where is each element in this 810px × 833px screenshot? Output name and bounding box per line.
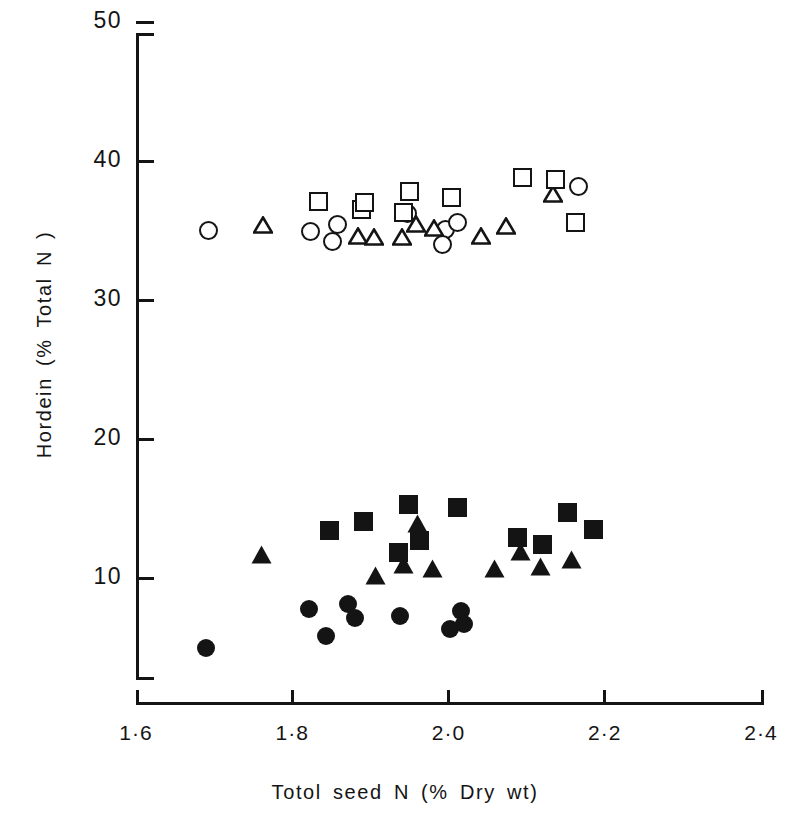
data-point-filled-circle (197, 639, 215, 657)
data-point-open-square (442, 188, 461, 207)
data-point-filled-square (389, 543, 408, 562)
x-axis-title: Totol seed N (% Dry wt) (0, 781, 810, 804)
data-point-filled-square (354, 512, 373, 531)
data-point-filled-triangle (251, 545, 272, 564)
data-point-open-circle (301, 222, 320, 241)
data-point-open-circle (569, 177, 588, 196)
data-point-filled-triangle (365, 566, 386, 585)
data-point-open-circle (433, 235, 452, 254)
data-point-filled-triangle (484, 559, 505, 578)
y-axis-title: Hordein (% Total N ) (33, 175, 56, 515)
data-point-filled-circle (300, 600, 318, 618)
data-point-open-square (566, 213, 585, 232)
data-point-filled-square (508, 528, 527, 547)
data-point-open-square (309, 192, 328, 211)
data-point-filled-triangle (561, 550, 582, 569)
data-point-open-circle (448, 213, 467, 232)
data-point-filled-circle (391, 607, 409, 625)
data-point-filled-square (533, 535, 552, 554)
data-point-open-square (400, 182, 419, 201)
data-point-filled-circle (317, 627, 335, 645)
data-point-filled-square (320, 521, 339, 540)
data-point-filled-square (410, 531, 429, 550)
data-point-filled-square (399, 495, 418, 514)
plot-data-area (0, 0, 810, 833)
data-point-filled-triangle (530, 557, 551, 576)
data-point-open-triangle (496, 217, 516, 235)
data-point-filled-square (584, 520, 603, 539)
data-point-filled-triangle (422, 559, 443, 578)
data-point-open-square (394, 203, 413, 222)
data-point-open-triangle (471, 227, 491, 245)
data-point-open-triangle (253, 216, 273, 234)
scatter-plot-figure: 1020304050 1·61·82·02·22·4 Hordein (% To… (0, 0, 810, 833)
data-point-open-square (355, 193, 374, 212)
data-point-open-square (546, 170, 565, 189)
data-point-filled-square (558, 503, 577, 522)
data-point-filled-circle (455, 615, 473, 633)
data-point-open-triangle (364, 228, 384, 246)
data-point-open-square (513, 168, 532, 187)
data-point-filled-circle (346, 609, 364, 627)
data-point-filled-square (448, 498, 467, 517)
data-point-open-circle (323, 232, 342, 251)
data-point-open-triangle (424, 219, 444, 237)
data-point-open-circle (199, 221, 218, 240)
